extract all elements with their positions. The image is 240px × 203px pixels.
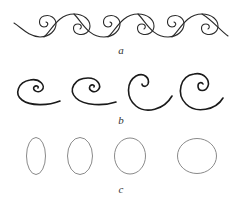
panel-a-wave-scroll bbox=[14, 14, 228, 37]
spiral-4 bbox=[180, 74, 223, 110]
ellipse-4 bbox=[178, 139, 217, 174]
ellipse-1 bbox=[27, 138, 46, 175]
ellipse-3 bbox=[115, 138, 146, 174]
wave-path bbox=[14, 15, 56, 37]
spiral-3 bbox=[129, 75, 173, 110]
panel-c-ellipses bbox=[27, 138, 217, 175]
figure-canvas bbox=[0, 0, 240, 203]
panel-b-spirals bbox=[18, 74, 223, 110]
panel-a-label: a bbox=[118, 45, 124, 56]
panel-c-label: c bbox=[119, 184, 124, 195]
spiral-2 bbox=[72, 78, 116, 105]
spiral-1 bbox=[18, 80, 60, 105]
ellipse-2 bbox=[68, 138, 93, 175]
panel-b-label: b bbox=[118, 115, 124, 126]
